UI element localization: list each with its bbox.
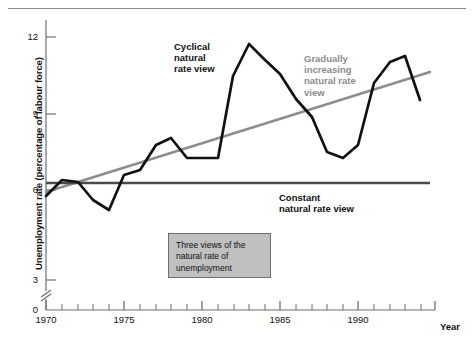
x-axis-minor-ticks bbox=[62, 304, 421, 310]
chart-figure: Unemployment rate (percentage of labour … bbox=[0, 0, 472, 338]
y-tick-label-3: 3 bbox=[16, 274, 38, 285]
y-tick-label-12: 12 bbox=[16, 31, 38, 42]
x-tick-label-1975: 1975 bbox=[104, 314, 144, 325]
x-tick-label-1985: 1985 bbox=[260, 314, 300, 325]
caption-text: Three views of the natural rate of unemp… bbox=[176, 240, 270, 274]
x-tick-label-1990: 1990 bbox=[338, 314, 378, 325]
annotation-gradual-natural-rate: Gradually increasing natural rate view bbox=[304, 53, 356, 98]
x-tick-label-1980: 1980 bbox=[182, 314, 222, 325]
x-axis-title: Year bbox=[440, 321, 460, 332]
y-axis-ticks bbox=[46, 37, 56, 280]
y-tick-label-6: 6 bbox=[16, 184, 38, 195]
annotation-cyclical-natural-rate: Cyclical natural rate view bbox=[174, 41, 215, 75]
y-axis-title: Unemployment rate (percentage of labour … bbox=[33, 39, 44, 289]
y-tick-label-9: 9 bbox=[16, 108, 38, 119]
x-axis-major-ticks bbox=[46, 301, 435, 310]
series-cyclical-natural-rate bbox=[46, 44, 420, 210]
caption-box: Three views of the natural rate of unemp… bbox=[168, 233, 271, 278]
axis-break-mark-1 bbox=[41, 290, 51, 297]
chart-plot-area bbox=[0, 0, 472, 338]
x-tick-label-1970: 1970 bbox=[26, 314, 66, 325]
annotation-constant-natural-rate: Constant natural rate view bbox=[279, 192, 354, 214]
